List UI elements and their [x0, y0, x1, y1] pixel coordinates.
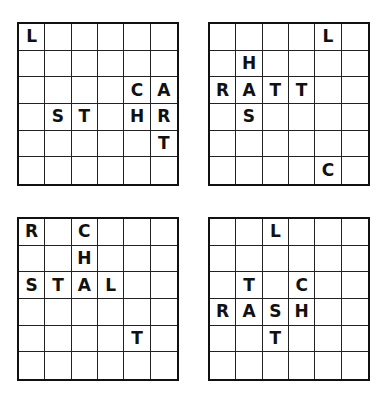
- grid-cell: [72, 24, 98, 51]
- grid-cell-letter: L: [315, 24, 341, 51]
- grid-cell: [98, 104, 124, 131]
- grid-cell: [342, 326, 368, 353]
- grid-cell: [236, 219, 262, 246]
- grid-cell: [236, 326, 262, 353]
- grid-cell: [210, 246, 236, 273]
- grid-cell-letter: C: [315, 157, 341, 184]
- grid-cell: [124, 246, 150, 273]
- grid-cell: [124, 352, 150, 379]
- grid-cell-letter: T: [72, 104, 98, 131]
- grid-cell: [315, 77, 341, 104]
- grid-cell: [98, 131, 124, 158]
- letter-grid-top-left: LCASTHRT: [17, 22, 179, 186]
- grid-cell: [19, 326, 45, 353]
- grid-cell-letter: R: [210, 299, 236, 326]
- grid-cell: [289, 326, 315, 353]
- grid-cell: [151, 352, 177, 379]
- grid-cell-letter: A: [151, 77, 177, 104]
- grid-cell-letter: T: [263, 77, 289, 104]
- grid-cell: [151, 326, 177, 353]
- grid-cell: [210, 219, 236, 246]
- grid-cell: [19, 299, 45, 326]
- grid-cell-letter: T: [236, 272, 262, 299]
- grid-cell: [19, 51, 45, 78]
- grid-cell-letter: L: [19, 24, 45, 51]
- grid-cell: [342, 77, 368, 104]
- grid-cell: [45, 352, 71, 379]
- grid-cell-letter: S: [19, 272, 45, 299]
- grid-cell: [45, 219, 71, 246]
- grid-cell: [45, 246, 71, 273]
- grid-cell-letter: H: [236, 51, 262, 78]
- grid-cell-letter: L: [98, 272, 124, 299]
- grid-cell: [289, 352, 315, 379]
- grid-cell: [263, 131, 289, 158]
- grid-cell: [210, 157, 236, 184]
- grid-cell: [45, 131, 71, 158]
- grid-cell: [72, 77, 98, 104]
- grid-cell-letter: S: [236, 104, 262, 131]
- grid-cell: [45, 51, 71, 78]
- grid-cell: [98, 246, 124, 273]
- grid-cell: [263, 272, 289, 299]
- grid-cell: [98, 219, 124, 246]
- grid-cell: [98, 352, 124, 379]
- grid-cell: [342, 352, 368, 379]
- grid-cell: [342, 219, 368, 246]
- grid-cell: [236, 131, 262, 158]
- grid-cell: [236, 157, 262, 184]
- grid-cell: [289, 104, 315, 131]
- grid-cell: [19, 131, 45, 158]
- grid-cell-letter: T: [124, 326, 150, 353]
- grid-cell: [315, 104, 341, 131]
- grid-cell: [263, 352, 289, 379]
- grid-cell: [45, 299, 71, 326]
- grid-cell: [45, 326, 71, 353]
- grid-cell: [289, 131, 315, 158]
- grid-cell-letter: L: [263, 219, 289, 246]
- grid-cell: [315, 272, 341, 299]
- grid-cell: [124, 131, 150, 158]
- grid-cell: [98, 326, 124, 353]
- grid-cell: [236, 246, 262, 273]
- grid-cell: [342, 272, 368, 299]
- grid-cell: [315, 299, 341, 326]
- grid-cell: [236, 24, 262, 51]
- grid-cell: [289, 246, 315, 273]
- grid-cell: [263, 24, 289, 51]
- grid-cell: [315, 352, 341, 379]
- grid-cell: [263, 51, 289, 78]
- grid-cell: [72, 299, 98, 326]
- grid-cell: [72, 131, 98, 158]
- grid-cell: [151, 219, 177, 246]
- grid-cell: [210, 272, 236, 299]
- grid-cell-letter: T: [263, 326, 289, 353]
- grid-cell: [72, 326, 98, 353]
- grid-cell: [289, 24, 315, 51]
- grid-cell: [151, 272, 177, 299]
- grid-cell: [342, 24, 368, 51]
- grid-cell: [72, 352, 98, 379]
- grid-cell-letter: T: [289, 77, 315, 104]
- grid-cell: [98, 77, 124, 104]
- grid-cell: [45, 77, 71, 104]
- letter-grid-bottom-right: LTCRASHT: [208, 217, 370, 381]
- grid-cell: [124, 157, 150, 184]
- grid-cell: [124, 299, 150, 326]
- grid-cell-letter: S: [45, 104, 71, 131]
- grid-cell-letter: R: [151, 104, 177, 131]
- grid-cell: [210, 24, 236, 51]
- grid-cell: [151, 24, 177, 51]
- grid-cell: [98, 157, 124, 184]
- grid-cell: [210, 131, 236, 158]
- grid-cell: [124, 272, 150, 299]
- grid-cell: [19, 77, 45, 104]
- grid-cell: [263, 157, 289, 184]
- grid-cell: [45, 157, 71, 184]
- grid-cell: [315, 326, 341, 353]
- grid-cell-letter: C: [124, 77, 150, 104]
- grid-cell-letter: A: [236, 299, 262, 326]
- grid-cell-letter: H: [289, 299, 315, 326]
- grid-cell: [315, 51, 341, 78]
- grid-cell: [236, 352, 262, 379]
